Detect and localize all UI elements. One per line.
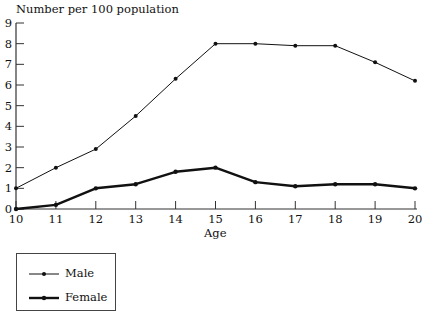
data-point-marker — [213, 165, 217, 169]
y-tick-label: 4 — [5, 119, 12, 133]
x-tick-label: 20 — [408, 212, 423, 226]
x-tick-label: 10 — [9, 212, 24, 226]
x-tick-label: 11 — [49, 212, 64, 226]
male-line-swatch-icon — [29, 269, 59, 279]
data-point-marker — [333, 182, 337, 186]
data-point-marker — [373, 60, 377, 64]
x-tick-label: 19 — [368, 212, 383, 226]
legend-label-female: Female — [65, 290, 107, 304]
x-axis-ticks: 1011121314151617181920 — [9, 201, 423, 226]
y-tick-label: 6 — [5, 78, 12, 92]
data-point-marker — [134, 182, 138, 186]
x-tick-label: 18 — [328, 212, 343, 226]
data-point-marker — [54, 203, 58, 207]
x-tick-label: 15 — [208, 212, 223, 226]
data-point-marker — [134, 114, 138, 118]
data-point-marker — [214, 42, 218, 46]
x-axis-title: Age — [204, 226, 226, 240]
axes — [16, 23, 417, 209]
y-tick-label: 9 — [5, 16, 12, 30]
data-point-marker — [373, 182, 377, 186]
legend-item-female: Female — [17, 290, 115, 306]
x-tick-label: 16 — [248, 212, 263, 226]
data-point-marker — [413, 186, 417, 190]
x-tick-label: 13 — [128, 212, 143, 226]
data-point-marker — [94, 147, 98, 151]
x-tick-label: 14 — [168, 212, 183, 226]
y-tick-label: 8 — [5, 37, 12, 51]
data-point-marker — [253, 180, 257, 184]
data-point-marker — [14, 207, 18, 211]
data-point-marker — [54, 166, 58, 170]
legend: Male Female — [16, 253, 116, 311]
data-point-marker — [293, 184, 297, 188]
data-point-marker — [333, 44, 337, 48]
data-point-marker — [174, 77, 178, 81]
female-line-swatch-icon — [29, 293, 59, 303]
x-tick-label: 17 — [288, 212, 303, 226]
data-point-marker — [293, 44, 297, 48]
y-tick-label: 3 — [5, 140, 12, 154]
legend-label-male: Male — [65, 266, 94, 280]
data-point-marker — [94, 186, 98, 190]
legend-item-male: Male — [17, 266, 115, 282]
data-point-marker — [14, 186, 18, 190]
y-tick-label: 1 — [5, 181, 12, 195]
x-tick-label: 12 — [88, 212, 103, 226]
y-tick-label: 7 — [5, 57, 12, 71]
data-series — [14, 42, 417, 212]
data-point-marker — [253, 42, 257, 46]
data-point-marker — [173, 170, 177, 174]
data-point-marker — [413, 79, 417, 83]
y-tick-label: 2 — [5, 161, 12, 175]
y-tick-label: 5 — [5, 99, 12, 113]
line-chart-plot: 0123456789 1011121314151617181920 — [0, 0, 423, 240]
